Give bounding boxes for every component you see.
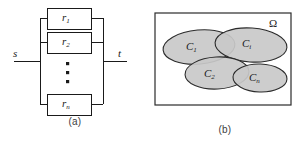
- panel-a-schematic: [0, 0, 150, 152]
- block-label-r1: r1: [62, 12, 70, 23]
- panel-b-caption: (b): [150, 124, 300, 135]
- panel-b-venn-diagram: Ω C1 Ci C2 Cn (b): [150, 0, 300, 152]
- ellipsis-dot-3: [66, 80, 69, 83]
- panel-a-parallel-block-diagram: r1 r2 rn s t (a): [0, 0, 150, 152]
- omega-universe-label: Ω: [269, 17, 277, 29]
- block-label-r2: r2: [62, 36, 70, 47]
- ellipsis-dot-1: [66, 62, 69, 65]
- set-label-c2: C2: [204, 68, 215, 79]
- figure-container: r1 r2 rn s t (a) Ω C1: [0, 0, 300, 152]
- set-label-cn: Cn: [249, 72, 260, 83]
- panel-a-caption: (a): [0, 116, 150, 127]
- set-label-ci: Ci: [242, 38, 251, 49]
- set-label-c1: C1: [186, 41, 197, 52]
- terminal-label-t: t: [118, 48, 121, 59]
- block-label-rn: rn: [62, 98, 70, 109]
- ellipsis-dot-2: [66, 71, 69, 74]
- terminal-label-s: s: [13, 48, 17, 59]
- vertical-ellipsis-dots: [66, 62, 69, 83]
